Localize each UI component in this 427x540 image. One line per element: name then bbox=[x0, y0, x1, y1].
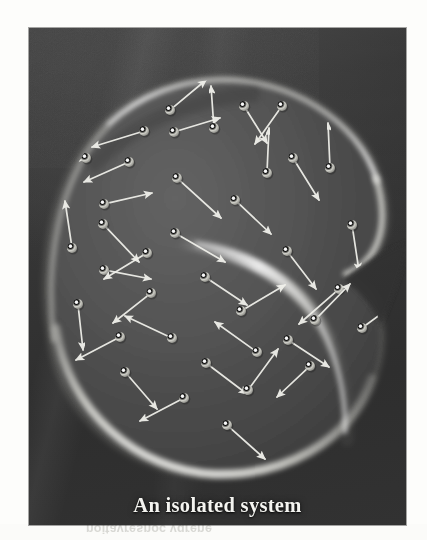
molecule-sphere bbox=[99, 199, 109, 209]
molecule-highlight bbox=[75, 301, 78, 304]
molecule-highlight bbox=[211, 125, 214, 128]
molecule-highlight bbox=[336, 286, 339, 289]
molecule-highlight bbox=[203, 360, 206, 363]
molecule-sphere bbox=[179, 393, 189, 403]
molecule-sphere bbox=[200, 272, 210, 282]
illustration-panel: An isolated system bbox=[29, 28, 406, 525]
molecule-highlight bbox=[312, 317, 315, 320]
molecule-sphere bbox=[243, 385, 253, 395]
molecule-highlight bbox=[285, 337, 288, 340]
molecule-sphere bbox=[67, 243, 77, 253]
molecule-sphere bbox=[357, 323, 367, 333]
molecule-highlight bbox=[359, 325, 362, 328]
molecule-highlight bbox=[238, 308, 241, 311]
molecule-highlight bbox=[327, 165, 330, 168]
molecule-highlight bbox=[101, 267, 104, 270]
figure-root: noitavresnoc ygrene bbox=[0, 0, 427, 540]
figure-caption: An isolated system bbox=[29, 494, 406, 517]
page-bleed-strip: noitavresnoc ygrene bbox=[0, 524, 427, 540]
molecule-highlight bbox=[69, 245, 72, 248]
molecule-highlight bbox=[122, 369, 125, 372]
molecule-highlight bbox=[117, 334, 120, 337]
molecule-highlight bbox=[144, 250, 147, 253]
molecule-highlight bbox=[264, 170, 267, 173]
molecule-highlight bbox=[141, 128, 144, 131]
molecule-highlight bbox=[126, 159, 129, 162]
molecule-highlight bbox=[279, 103, 282, 106]
molecule-highlight bbox=[169, 335, 172, 338]
molecule-sphere bbox=[236, 306, 246, 316]
molecule-sphere bbox=[124, 157, 134, 167]
bleed-text: noitavresnoc ygrene bbox=[86, 524, 212, 536]
molecule-sphere bbox=[262, 168, 272, 178]
molecule-highlight bbox=[148, 290, 151, 293]
molecule-highlight bbox=[174, 175, 177, 178]
molecule-highlight bbox=[100, 221, 103, 224]
molecule-sphere bbox=[172, 173, 182, 183]
molecule-highlight bbox=[167, 107, 170, 110]
molecule-highlight bbox=[171, 129, 174, 132]
molecule-sphere bbox=[170, 228, 180, 238]
molecule-highlight bbox=[101, 201, 104, 204]
molecule-sphere bbox=[288, 153, 298, 163]
molecule-sphere bbox=[99, 265, 109, 275]
molecule-highlight bbox=[307, 363, 310, 366]
molecule-sphere bbox=[139, 126, 149, 136]
molecule-highlight bbox=[202, 274, 205, 277]
molecule-highlight bbox=[83, 155, 86, 158]
molecule-sphere bbox=[230, 195, 240, 205]
molecule-highlight bbox=[290, 155, 293, 158]
molecule-sphere bbox=[169, 127, 179, 137]
molecule-sphere bbox=[347, 220, 357, 230]
molecule-highlight bbox=[245, 387, 248, 390]
molecule-sphere bbox=[201, 358, 211, 368]
isolated-system-blob bbox=[43, 76, 406, 479]
molecule-highlight bbox=[232, 197, 235, 200]
molecule-sphere bbox=[305, 361, 315, 371]
molecule-highlight bbox=[254, 349, 257, 352]
molecule-sphere bbox=[282, 246, 292, 256]
molecule-highlight bbox=[224, 422, 227, 425]
molecule-sphere bbox=[165, 105, 175, 115]
molecule-sphere bbox=[98, 219, 108, 229]
isolated-system-scene bbox=[29, 28, 406, 525]
molecule-highlight bbox=[241, 103, 244, 106]
molecule-sphere bbox=[283, 335, 293, 345]
molecule-sphere bbox=[73, 299, 83, 309]
molecule-sphere bbox=[325, 163, 335, 173]
molecule-highlight bbox=[349, 222, 352, 225]
molecule-sphere bbox=[222, 420, 232, 430]
molecule-sphere bbox=[310, 315, 320, 325]
molecule-sphere bbox=[239, 101, 249, 111]
molecule-highlight bbox=[284, 248, 287, 251]
molecule-sphere bbox=[252, 347, 262, 357]
molecule-sphere bbox=[277, 101, 287, 111]
molecule-sphere bbox=[209, 123, 219, 133]
molecule-sphere bbox=[146, 288, 156, 298]
molecule-sphere bbox=[167, 333, 177, 343]
molecule-highlight bbox=[172, 230, 175, 233]
molecule-highlight bbox=[181, 395, 184, 398]
molecule-sphere bbox=[142, 248, 152, 258]
molecule-sphere bbox=[120, 367, 130, 377]
molecule-sphere bbox=[115, 332, 125, 342]
